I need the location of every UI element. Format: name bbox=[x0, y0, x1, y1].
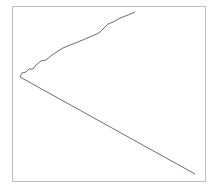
lower-series-line bbox=[20, 77, 195, 174]
line-plot bbox=[0, 0, 215, 192]
plot-frame bbox=[13, 7, 206, 182]
upper-series-line bbox=[20, 12, 135, 77]
